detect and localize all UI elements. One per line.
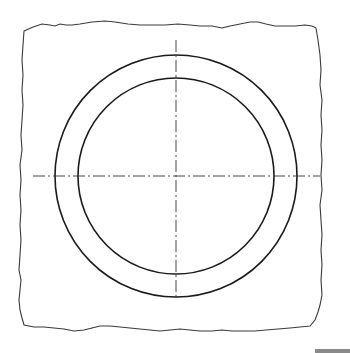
corner-bar: [315, 349, 350, 353]
ring-section-drawing: [0, 0, 350, 353]
